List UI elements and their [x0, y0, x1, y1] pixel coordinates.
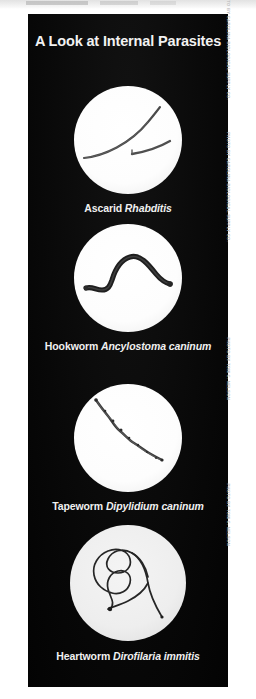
ascarid-photo-wrapper [28, 84, 228, 196]
specimen-caption-ascarid: Ascarid Rhabditis [28, 202, 228, 214]
hookworm-photo-wrapper [28, 222, 228, 334]
photo-credit-heartworm: Photo by Tom C. Nelson [226, 483, 230, 546]
tapeworm-scientific-name: Dipylidium caninum [106, 500, 204, 512]
tapeworm-photo-wrapper [28, 382, 228, 494]
specimen-block-ascarid: Ascarid Rhabditis [28, 84, 228, 214]
scan-streak [100, 1, 138, 5]
heartworm-scientific-name: Dirofilaria immitis [113, 650, 200, 662]
scan-streak [26, 1, 88, 5]
hookworm-scientific-name: Ancylostoma caninum [101, 340, 211, 352]
page-title: A Look at Internal Parasites [28, 34, 228, 50]
specimen-block-hookworm: Hookworm Ancylostoma caninum [28, 222, 228, 352]
hookworm-common-name: Hookworm [45, 340, 98, 352]
ascarid-scientific-name: Rhabditis [125, 202, 172, 214]
hookworm-photo [74, 224, 182, 332]
heartworm-common-name: Heartworm [56, 650, 110, 662]
photo-credit-tapeworm: Photo by Tom C. Nelson [226, 337, 230, 400]
specimen-block-heartworm: Heartworm Dirofilaria immitis [28, 522, 228, 662]
ascarid-photo [74, 86, 182, 194]
page-top-scan-band [0, 0, 256, 9]
ascarid-common-name: Ascarid [84, 202, 122, 214]
specimen-block-tapeworm: Tapeworm Dipylidium caninum [28, 382, 228, 512]
parasites-poster: A Look at Internal Parasites Ascarid Rha… [28, 14, 228, 687]
tapeworm-photo [74, 384, 182, 492]
scan-streak [150, 1, 176, 5]
specimen-caption-heartworm: Heartworm Dirofilaria immitis [28, 650, 228, 662]
heartworm-photo [70, 525, 186, 641]
heartworm-photo-wrapper [28, 522, 228, 644]
specimen-caption-tapeworm: Tapeworm Dipylidium caninum [28, 500, 228, 512]
tapeworm-common-name: Tapeworm [52, 500, 103, 512]
photo-credit-hookworm: Photo by Carolina Biological Supply Co. [226, 132, 230, 242]
specimen-caption-hookworm: Hookworm Ancylostoma caninum [28, 340, 228, 352]
photo-credit-ascarid: Photo by Carolina Biological Supply Co. [226, 0, 230, 100]
